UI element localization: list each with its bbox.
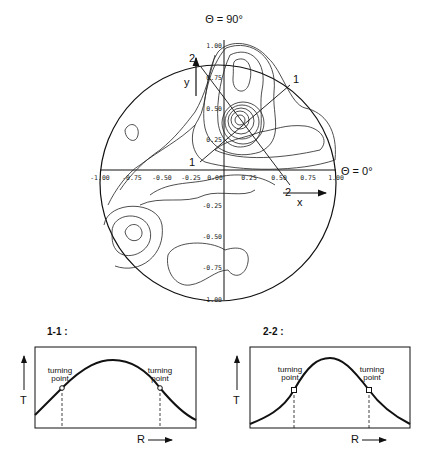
turning-point-dot — [292, 388, 297, 393]
diagram-canvas: Θ = 90° Θ = 0° -1.00 -0.75 -0.50 -0.25 0… — [0, 0, 434, 465]
section-1-end-label: 1 — [293, 73, 299, 85]
r-axis-label: R — [351, 433, 359, 445]
svg-text:point: point — [151, 374, 169, 383]
svg-text:0.50: 0.50 — [206, 105, 222, 113]
svg-text:point: point — [281, 373, 299, 382]
section-2-end-label: 2 — [285, 186, 291, 198]
section-line-1-1 — [200, 85, 290, 162]
svg-text:point: point — [363, 373, 381, 382]
section-2-2-curve — [250, 358, 410, 424]
svg-text:0.75: 0.75 — [300, 174, 316, 182]
t-axis-label: T — [233, 394, 240, 406]
turning-point-dot — [158, 386, 163, 391]
turning-point-dot — [60, 386, 65, 391]
r-axis-label: R — [137, 433, 145, 445]
section-1-1-profile: 1-1 : T turning point turning point R — [20, 326, 196, 445]
svg-text:-1.00: -1.00 — [202, 296, 222, 304]
section-2-2-profile: 2-2 : T turning point turning point R — [233, 326, 410, 445]
section-1-start-label: 1 — [189, 156, 195, 168]
section-line-2-2 — [201, 67, 290, 185]
t-axis-label: T — [20, 394, 27, 406]
polar-contour-plot: Θ = 90° Θ = 0° -1.00 -0.75 -0.50 -0.25 0… — [90, 13, 372, 304]
y-axis-label: y — [184, 76, 190, 88]
svg-text:1.00: 1.00 — [206, 42, 222, 50]
svg-text:-0.50: -0.50 — [202, 233, 222, 241]
svg-text:-0.25: -0.25 — [202, 202, 222, 210]
theta-90-label: Θ = 90° — [205, 13, 243, 25]
svg-text:-0.75: -0.75 — [202, 264, 222, 272]
svg-text:-0.25: -0.25 — [181, 174, 201, 182]
svg-text:1.00: 1.00 — [328, 174, 344, 182]
section-2-2-title: 2-2 : — [263, 326, 284, 337]
section-2-start-label: 2 — [189, 52, 195, 64]
turning-point-dot — [367, 388, 372, 393]
section-2-2-frame — [250, 347, 410, 428]
svg-text:-0.50: -0.50 — [152, 174, 172, 182]
section-1-1-title: 1-1 : — [47, 326, 68, 337]
svg-text:point: point — [51, 374, 69, 383]
svg-text:-1.00: -1.00 — [90, 174, 110, 182]
theta-0-label: Θ = 0° — [341, 165, 373, 177]
x-axis-label: x — [297, 196, 303, 208]
